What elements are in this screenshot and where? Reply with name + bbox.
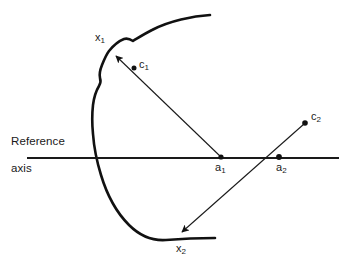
point-label-a1-sub: 1 xyxy=(221,166,225,175)
point-marker-c1 xyxy=(132,66,137,71)
point-label-x2: x2 xyxy=(176,243,186,256)
point-label-a2: a2 xyxy=(276,162,287,175)
point-label-c1-sub: 1 xyxy=(145,63,149,72)
point-label-a1: a1 xyxy=(215,162,226,175)
point-label-x2-sub: 2 xyxy=(182,247,186,256)
point-label-x1: x1 xyxy=(95,32,105,45)
figure-root: Reference axis x1 c1 a1 a2 c2 x2 xyxy=(0,0,347,267)
ray-a1-to-x1 xyxy=(116,56,221,157)
reference-axis-label-line2: axis xyxy=(11,163,32,175)
reference-axis-label-line1: Reference xyxy=(11,136,65,148)
ray-c2-to-x2 xyxy=(182,124,304,232)
point-label-x1-sub: 1 xyxy=(101,36,105,45)
point-label-a2-sub: 2 xyxy=(282,166,286,175)
point-marker-a2 xyxy=(276,154,282,160)
wavefront-curve xyxy=(92,15,215,240)
point-marker-a1 xyxy=(218,154,223,159)
point-marker-c2 xyxy=(302,120,308,126)
point-label-c2: c2 xyxy=(311,111,321,124)
point-label-c2-sub: 2 xyxy=(317,115,321,124)
point-label-c1: c1 xyxy=(139,59,149,72)
figure-canvas xyxy=(0,0,347,267)
